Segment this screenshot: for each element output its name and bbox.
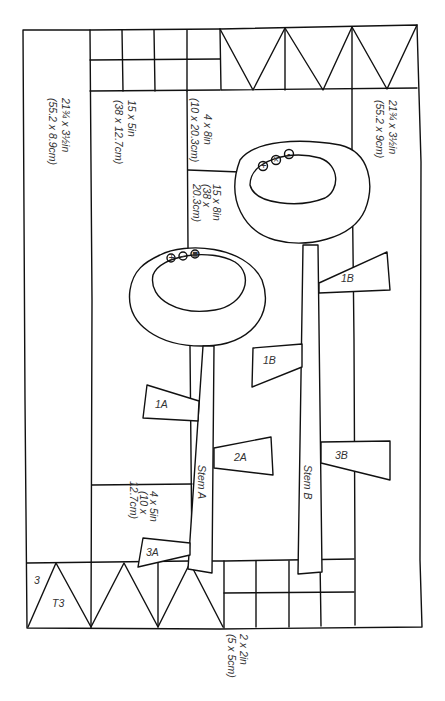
label-leaf-1a: 1A [155, 398, 168, 410]
label-lower-block: 4 x 5in (10 x 12.7cm) [128, 481, 160, 525]
left-border-divider [90, 30, 92, 628]
label-squares: 2 x 2in (5 x 5cm) [226, 633, 250, 678]
flower-b-button-1: + [261, 160, 267, 171]
label-stem-b: Stem B [302, 465, 314, 499]
label-leaf-2a: 2A [233, 451, 247, 463]
leaf-3b [321, 441, 390, 480]
label-left-panel: 15 x 5in (38 x 12.7cm) [113, 100, 138, 164]
flower-a-button-3: ■ [192, 248, 198, 259]
stem-b [298, 245, 322, 574]
flower-a: + - ■ [130, 248, 266, 346]
label-left-border: 21¾ x 3½in (55.2 x 8.9cm) [47, 97, 72, 165]
leaf-1b-lower [252, 344, 302, 387]
bottom-squares-grid [192, 559, 354, 628]
label-stem-a: Stem A [196, 465, 208, 499]
flower-b: + × - [235, 141, 370, 243]
label-triangle-t3: T3 [52, 597, 64, 609]
top-squares-grid [90, 30, 220, 91]
label-leaf-1b-upper: 1B [341, 272, 354, 284]
top-triangle-band [220, 25, 417, 90]
label-leaf-3b: 3B [335, 449, 348, 461]
bottom-triangle-band [28, 562, 223, 627]
upper-strip-bottom [188, 170, 240, 172]
flower-b-button-2: × [273, 154, 279, 165]
label-triangle-number: 3 [34, 574, 40, 586]
label-leaf-3a: 3A [146, 546, 159, 558]
label-upper-strip: 4 x 8in (10 x 20.3cm) [189, 98, 214, 162]
quilt-diagram: + × - + - ■ 21¾ x 3½in (55.2 x 8.9cm) 15… [0, 0, 445, 701]
label-leaf-1b-lower: 1B [263, 354, 276, 366]
flower-a-button-1: + [169, 252, 175, 263]
label-right-border: 21¾ x 3½in (55.2 x 9cm) [374, 99, 399, 158]
leaf-1b-upper [319, 252, 390, 293]
label-middle-panel: 15 x 8in (38 x 20.3cm) [191, 183, 223, 224]
stem-a [188, 346, 214, 573]
lower-block-top [92, 484, 192, 485]
